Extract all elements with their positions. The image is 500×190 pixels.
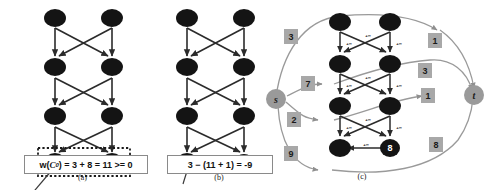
node-group-b: 8 (176, 9, 255, 171)
source-node-label: s (273, 94, 278, 105)
node (176, 58, 198, 76)
equation-box-b: 3 − (11 + 1) = -9 (167, 155, 273, 174)
weight-value: 1 (432, 36, 437, 46)
node (44, 58, 66, 76)
edge-weight: +∞ (346, 125, 351, 130)
node-group-a: 3 8 (44, 9, 123, 171)
node (101, 9, 123, 27)
weight-value: 3 (288, 32, 293, 42)
panel-c-graph: +∞ +∞ +∞ +∞ +∞ +∞ +∞ +∞ +∞ +∞ 3 7 2 9 (262, 0, 500, 190)
edge-weight: +∞ (396, 83, 401, 88)
sink-node: t (464, 85, 484, 105)
edge-weight: +∞ (396, 41, 401, 46)
node (379, 55, 401, 73)
node (329, 97, 351, 115)
figure-root: 3 8 w(C0) = 3 + 8 = 11 >= 0 (a) (0, 0, 500, 190)
node (329, 55, 351, 73)
equation-prefix: w( (39, 160, 49, 170)
node (379, 97, 401, 115)
sink-weight-boxes: 1 3 1 8 (418, 33, 443, 152)
panel-a: 3 8 w(C0) = 3 + 8 = 11 >= 0 (a) (0, 0, 165, 190)
panel-a-caption: (a) (0, 173, 165, 182)
edge-weight: +∞ (365, 117, 370, 122)
node (329, 13, 351, 31)
node-label-c-8: 8 (387, 143, 392, 153)
panel-c-caption: (c) (262, 172, 462, 181)
edge-weight: +∞ (363, 142, 368, 147)
node (233, 58, 255, 76)
node (101, 58, 123, 76)
node (44, 107, 66, 125)
weight-value: 3 (422, 66, 427, 76)
edge-weight: +∞ (365, 33, 370, 38)
weight-value: 7 (305, 79, 310, 89)
equation-text-b: 3 − (11 + 1) = -9 (188, 160, 252, 170)
weight-value: 8 (433, 140, 438, 150)
weight-value: 9 (288, 149, 293, 159)
edge-weight: +∞ (365, 75, 370, 80)
weight-value: 1 (425, 91, 430, 101)
node (101, 107, 123, 125)
node (176, 107, 198, 125)
panel-b-caption: (b) (165, 173, 273, 182)
node (233, 107, 255, 125)
edge-weight: +∞ (396, 125, 401, 130)
equation-suffix: ) = 3 + 8 = 11 >= 0 (59, 160, 133, 170)
edge-weight: +∞ (346, 41, 351, 46)
node (329, 139, 351, 157)
source-node: s (266, 89, 286, 109)
node (233, 9, 255, 27)
node (379, 13, 401, 31)
node (176, 9, 198, 27)
panel-a-graph: 3 8 (0, 0, 165, 150)
node (44, 9, 66, 27)
panel-c: +∞ +∞ +∞ +∞ +∞ +∞ +∞ +∞ +∞ +∞ 3 7 2 9 (262, 0, 500, 190)
equation-box-a: w(C0) = 3 + 8 = 11 >= 0 (24, 155, 148, 174)
weight-value: 2 (291, 115, 296, 125)
edge-weight: +∞ (346, 83, 351, 88)
